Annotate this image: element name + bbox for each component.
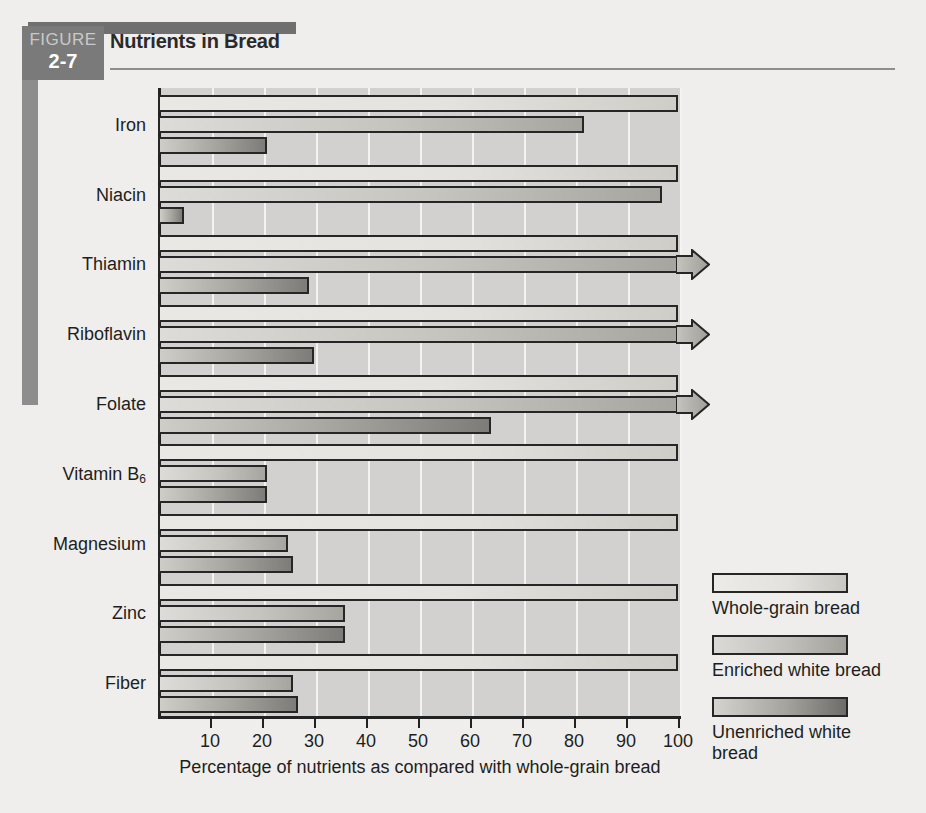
category-label-fiber: Fiber: [10, 673, 158, 694]
bar-niacin-enriched: [158, 186, 662, 203]
bar-iron-enriched: [158, 116, 584, 133]
tick-mark-90: [626, 719, 628, 728]
tick-mark-100: [678, 719, 680, 728]
category-label-thiamin: Thiamin: [10, 254, 158, 275]
bar-magnesium-unenriched: [158, 556, 293, 573]
category-label-magnesium: Magnesium: [10, 533, 158, 554]
bar-niacin-whole: [158, 165, 678, 182]
bar-vitamin-b6-unenriched: [158, 486, 267, 503]
legend-swatch-enriched: [712, 635, 848, 655]
legend-swatch-whole: [712, 573, 848, 593]
overflow-arrow-folate: [676, 389, 706, 420]
tick-mark-50: [418, 719, 420, 728]
bar-magnesium-enriched: [158, 535, 288, 552]
bar-thiamin-whole: [158, 235, 678, 252]
bar-vitamin-b6-whole: [158, 444, 678, 461]
tick-mark-60: [470, 719, 472, 728]
tick-label-100: 100: [663, 731, 693, 752]
tick-label-50: 50: [408, 731, 428, 752]
legend-entry-enriched: Enriched white bread: [712, 635, 912, 681]
x-axis-title: Percentage of nutrients as compared with…: [179, 757, 660, 778]
bar-thiamin-unenriched: [158, 277, 309, 294]
bar-thiamin-enriched: [158, 256, 678, 273]
category-label-vitamin-b6: Vitamin B6: [10, 463, 158, 484]
tick-label-20: 20: [252, 731, 272, 752]
category-label-iron: Iron: [10, 114, 158, 135]
tick-mark-70: [522, 719, 524, 728]
legend-entry-whole: Whole-grain bread: [712, 573, 912, 619]
overflow-arrow-riboflavin: [676, 319, 706, 350]
legend-label-enriched: Enriched white bread: [712, 660, 892, 681]
bar-iron-unenriched: [158, 137, 267, 154]
tick-label-40: 40: [356, 731, 376, 752]
overflow-arrow-thiamin: [676, 249, 706, 280]
bar-fiber-whole: [158, 654, 678, 671]
legend-label-unenriched: Unenriched white bread: [712, 722, 892, 764]
category-label-zinc: Zinc: [10, 603, 158, 624]
bar-riboflavin-enriched: [158, 326, 678, 343]
legend-swatch-unenriched: [712, 697, 848, 717]
bar-folate-whole: [158, 375, 678, 392]
bar-folate-unenriched: [158, 417, 491, 434]
bar-vitamin-b6-enriched: [158, 465, 267, 482]
bar-riboflavin-unenriched: [158, 347, 314, 364]
category-label-niacin: Niacin: [10, 184, 158, 205]
tick-mark-30: [314, 719, 316, 728]
bar-niacin-unenriched: [158, 207, 184, 224]
tick-mark-10: [210, 719, 212, 728]
bar-zinc-enriched: [158, 605, 345, 622]
tick-mark-80: [574, 719, 576, 728]
tick-label-70: 70: [512, 731, 532, 752]
bar-zinc-unenriched: [158, 626, 345, 643]
tick-label-60: 60: [460, 731, 480, 752]
tick-label-80: 80: [564, 731, 584, 752]
bar-riboflavin-whole: [158, 305, 678, 322]
tick-mark-40: [366, 719, 368, 728]
category-label-riboflavin: Riboflavin: [10, 324, 158, 345]
bar-zinc-whole: [158, 584, 678, 601]
legend-label-whole: Whole-grain bread: [712, 598, 892, 619]
tick-label-90: 90: [616, 731, 636, 752]
bar-fiber-unenriched: [158, 696, 298, 713]
chart-legend: Whole-grain breadEnriched white breadUne…: [712, 573, 912, 780]
tick-label-10: 10: [200, 731, 220, 752]
category-label-folate: Folate: [10, 394, 158, 415]
bar-fiber-enriched: [158, 675, 293, 692]
tick-label-30: 30: [304, 731, 324, 752]
bar-folate-enriched: [158, 396, 678, 413]
bar-iron-whole: [158, 95, 678, 112]
bar-magnesium-whole: [158, 514, 678, 531]
tick-mark-20: [262, 719, 264, 728]
legend-entry-unenriched: Unenriched white bread: [712, 697, 912, 764]
